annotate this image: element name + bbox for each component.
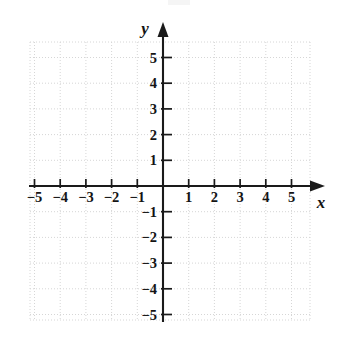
x-axis-tick-labels: −5−4−3−2−112345 [27,189,295,205]
x-tick-label: −4 [52,189,68,205]
x-tick-label: 2 [211,189,218,205]
y-tick-label: 1 [150,152,157,168]
y-tick-label: −3 [141,255,157,271]
x-tick-label: 5 [288,189,295,205]
y-tick-label: 4 [150,75,157,91]
x-tick-label: −1 [130,189,146,205]
coordinate-plane-svg: −5−4−3−2−112345 54321−1−2−3−4−5 y x [0,0,343,348]
y-tick-label: −5 [141,307,157,323]
x-tick-label: −2 [104,189,120,205]
y-tick-label: −1 [141,204,157,220]
y-tick-label: −4 [141,281,157,297]
x-tick-label: −5 [27,189,43,205]
y-tick-label: 2 [150,127,157,143]
y-axis-label: y [139,19,149,38]
coordinate-plane-figure: −5−4−3−2−112345 54321−1−2−3−4−5 y x [0,0,343,348]
x-tick-label: 1 [185,189,192,205]
x-tick-label: 4 [262,189,269,205]
x-tick-label: 3 [236,189,243,205]
y-tick-label: 3 [150,101,157,117]
x-axis-label: x [316,193,326,212]
y-tick-label: 5 [150,50,157,66]
x-tick-label: −3 [78,189,94,205]
y-tick-label: −2 [141,229,157,245]
y-axis-arrow-icon [158,22,169,37]
x-axis-arrow-icon [310,181,325,192]
